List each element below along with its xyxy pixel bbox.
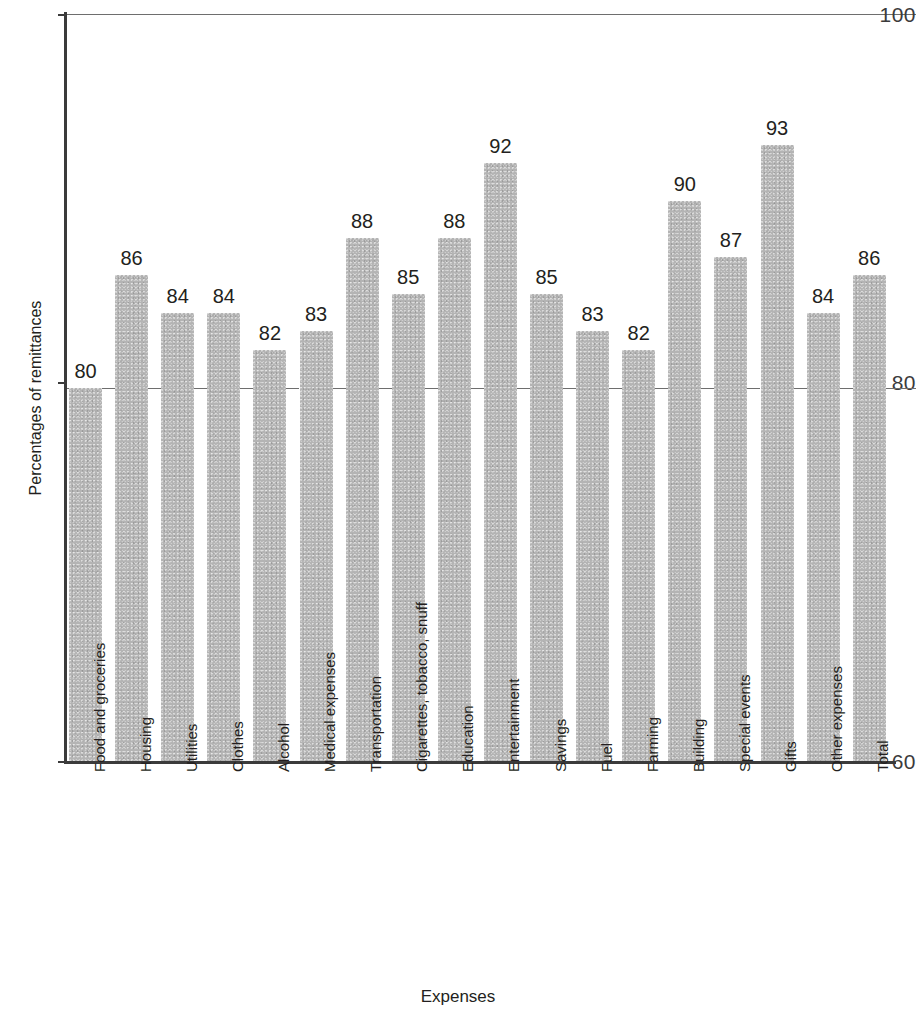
bar-value-label: 82: [610, 323, 667, 343]
gridline-80-segment: [148, 388, 161, 389]
bar-value-label: 80: [57, 361, 114, 381]
x-axis-category-label: Medical expenses: [322, 652, 337, 772]
x-axis-category-label: Savings: [553, 719, 568, 772]
gridline-80-segment: [379, 388, 392, 389]
bar-value-label: 84: [195, 286, 252, 306]
x-axis-category-label: Alcohol: [276, 723, 291, 772]
bar: [761, 145, 794, 761]
gridline-80-segment: [840, 388, 853, 389]
x-axis-category-label: Fuel: [599, 743, 614, 772]
gridline-80-segment: [333, 388, 346, 389]
x-axis-category-label: Cigarettes, tobacco, snuff: [414, 602, 429, 772]
x-axis-category-label: Total: [875, 740, 890, 772]
gridline-80-segment: [194, 388, 207, 389]
gridline-80-segment: [794, 388, 807, 389]
gridline-80-segment: [563, 388, 576, 389]
gridline-80-segment: [655, 388, 668, 389]
bar-value-label: 92: [472, 136, 529, 156]
gridline-80-segment: [286, 388, 299, 389]
bar: [253, 350, 286, 761]
gridline-80-segment: [240, 388, 253, 389]
x-axis-category-label: Gifts: [783, 741, 798, 772]
x-axis-category-label: Transportation: [368, 676, 383, 772]
x-axis-category-label: Housing: [138, 717, 153, 772]
bar-value-label: 90: [656, 174, 713, 194]
bar-value-label: 86: [103, 248, 160, 268]
x-axis-category-label: Food and groceries: [92, 643, 107, 772]
gridline-80-segment: [517, 388, 530, 389]
x-axis-category-label: Other expenses: [829, 666, 844, 772]
gridline-80-segment: [471, 388, 484, 389]
bar-value-label: 86: [841, 248, 898, 268]
bar-value-label: 82: [241, 323, 298, 343]
bar-value-label: 88: [426, 211, 483, 231]
bar-value-label: 88: [334, 211, 391, 231]
bar: [207, 313, 240, 761]
gridline-80-segment: [747, 388, 760, 389]
x-axis-category-label: Farming: [645, 717, 660, 772]
x-axis-category-label: Education: [460, 705, 475, 772]
gridline-80-segment: [102, 388, 115, 389]
gridline-80-segment: [609, 388, 622, 389]
bar: [576, 331, 609, 761]
bar-value-label: 87: [702, 230, 759, 250]
bar-value-label: 84: [795, 286, 852, 306]
bar: [115, 275, 148, 761]
gridline-80-segment: [886, 388, 916, 389]
bar-value-label: 85: [380, 267, 437, 287]
gridline-80-segment: [701, 388, 714, 389]
bar: [438, 238, 471, 761]
bar: [853, 275, 886, 761]
gridline-80-segment: [425, 388, 438, 389]
bar: [484, 163, 517, 761]
plot-area: 80Food and groceries86Housing84Utilities…: [0, 0, 916, 1022]
bar: [530, 294, 563, 761]
x-axis-category-label: Entertainment: [506, 679, 521, 772]
bar-value-label: 85: [518, 267, 575, 287]
bar-value-label: 83: [288, 304, 345, 324]
bar: [622, 350, 655, 761]
bar-value-label: 93: [749, 118, 806, 138]
bar-value-label: 83: [564, 304, 621, 324]
bar-chart: 100 80 60 Percentages of remittances Exp…: [0, 0, 916, 1022]
bar: [668, 201, 701, 761]
x-axis-category-label: Clothes: [230, 721, 245, 772]
x-axis-category-label: Utilities: [184, 724, 199, 772]
bar: [161, 313, 194, 761]
x-axis-category-label: Special events: [737, 674, 752, 772]
x-axis-category-label: Building: [691, 719, 706, 772]
